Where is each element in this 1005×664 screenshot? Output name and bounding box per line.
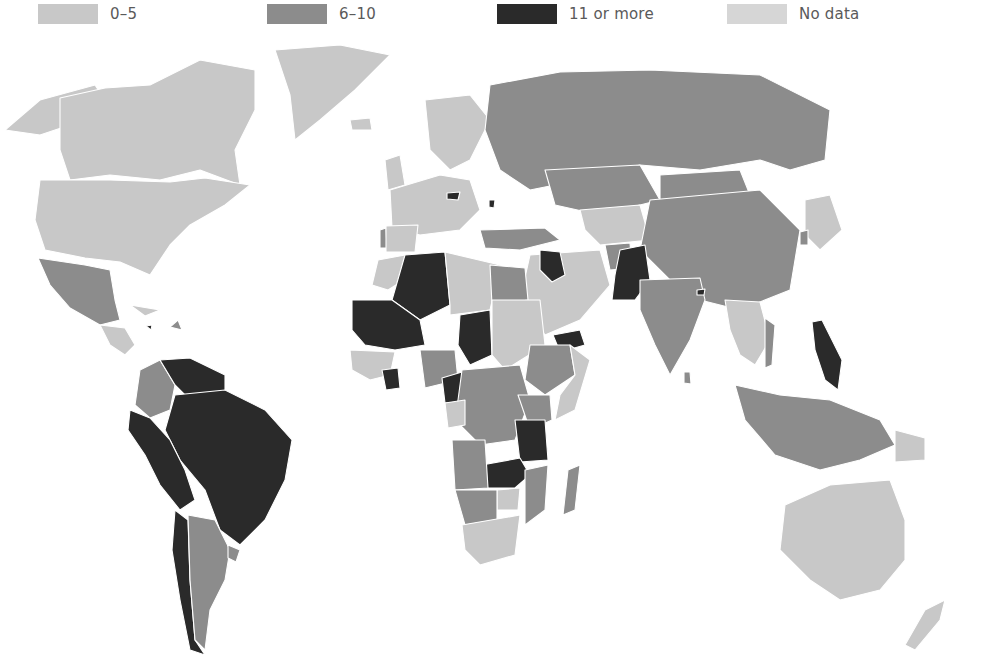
region-usa bbox=[35, 178, 250, 275]
region-cuba bbox=[130, 305, 160, 316]
region-uruguay bbox=[228, 545, 240, 562]
region-zambia-malawi bbox=[482, 458, 530, 488]
region-papua-new-guinea bbox=[895, 430, 925, 462]
region-nepal bbox=[697, 289, 705, 295]
region-dominican-republic bbox=[170, 320, 182, 330]
legend-swatch-11-plus bbox=[497, 4, 557, 24]
region-korea-japan bbox=[805, 195, 842, 250]
region-mozambique bbox=[525, 465, 548, 525]
region-central-america bbox=[100, 325, 135, 355]
region-central-asia bbox=[580, 205, 650, 245]
region-russia bbox=[485, 70, 830, 190]
world-map bbox=[0, 32, 1005, 664]
region-iberia bbox=[386, 225, 418, 252]
region-canada bbox=[60, 60, 255, 185]
legend-swatch-no-data bbox=[727, 4, 787, 24]
region-iceland bbox=[350, 118, 372, 130]
region-philippines bbox=[812, 320, 842, 390]
legend-swatch-6-10 bbox=[267, 4, 327, 24]
region-greece-turkey bbox=[480, 228, 560, 250]
region-mainland-se-asia bbox=[725, 300, 770, 365]
region-greenland bbox=[275, 45, 390, 140]
region-chad bbox=[458, 310, 492, 365]
region-vietnam bbox=[765, 318, 775, 368]
legend-label-no-data: No data bbox=[799, 5, 859, 23]
legend-label-6-10: 6–10 bbox=[339, 5, 376, 23]
region-australia bbox=[780, 480, 905, 600]
legend-item-0-5: 0–5 bbox=[38, 3, 137, 25]
region-mexico bbox=[38, 258, 120, 325]
legend-label-11-plus: 11 or more bbox=[569, 5, 654, 23]
region-angola bbox=[452, 440, 488, 490]
legend-item-11-plus: 11 or more bbox=[497, 3, 654, 25]
region-indonesia-malaysia bbox=[735, 385, 895, 470]
region-sri-lanka bbox=[684, 372, 691, 384]
region-czechia bbox=[447, 192, 460, 200]
region-moldova bbox=[489, 200, 495, 208]
region-tanzania bbox=[515, 420, 548, 462]
region-zimbabwe bbox=[497, 488, 520, 510]
region-gabon-congo bbox=[445, 400, 465, 428]
region-egypt bbox=[490, 265, 528, 305]
legend-label-0-5: 0–5 bbox=[110, 5, 137, 23]
region-madagascar bbox=[563, 465, 580, 515]
map-legend: 0–5 6–10 11 or more No data bbox=[0, 0, 1005, 32]
legend-item-no-data: No data bbox=[727, 3, 859, 25]
region-haiti bbox=[146, 325, 152, 330]
world-map-svg bbox=[0, 32, 1005, 664]
legend-swatch-0-5 bbox=[38, 4, 98, 24]
region-uk-ireland bbox=[385, 155, 405, 190]
region-new-zealand bbox=[905, 600, 945, 650]
region-india bbox=[640, 278, 705, 375]
region-scandinavia bbox=[425, 95, 490, 170]
region-kazakhstan bbox=[545, 165, 660, 215]
region-south-korea bbox=[800, 230, 808, 245]
region-cote-divoire bbox=[382, 368, 400, 390]
legend-item-6-10: 6–10 bbox=[267, 3, 376, 25]
region-argentina bbox=[188, 515, 230, 650]
